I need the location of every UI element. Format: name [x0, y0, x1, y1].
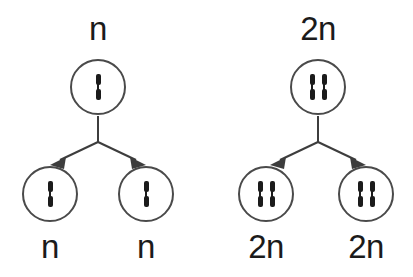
diagram-diploid: 2n	[207, 0, 413, 277]
daughter-right-ploidy-label: n	[106, 230, 186, 263]
parent-ploidy-label: n	[53, 12, 143, 45]
daughter-left-ploidy-label: 2n	[226, 230, 306, 263]
chromosome-icon	[321, 74, 328, 100]
daughter-cell-right	[338, 166, 394, 222]
chromosome-icon	[357, 181, 364, 207]
chromosome-icon	[143, 181, 150, 207]
daughter-left-ploidy-label: n	[10, 230, 90, 263]
chromosome-icon	[95, 74, 102, 100]
chromosome-icon	[309, 74, 316, 100]
chromosome-icon	[369, 181, 376, 207]
daughter-cell-left	[238, 166, 294, 222]
chromosome-icon	[47, 181, 54, 207]
diagram-haploid: n n n	[0, 0, 206, 277]
chromosome-icon	[269, 181, 276, 207]
daughter-cell-right	[118, 166, 174, 222]
parent-cell	[290, 59, 346, 115]
chromosome-icon	[257, 181, 264, 207]
daughter-cell-left	[22, 166, 78, 222]
daughter-right-ploidy-label: 2n	[326, 230, 406, 263]
parent-ploidy-label: 2n	[273, 12, 363, 45]
figure-canvas: n n n	[0, 0, 413, 277]
parent-cell	[70, 59, 126, 115]
